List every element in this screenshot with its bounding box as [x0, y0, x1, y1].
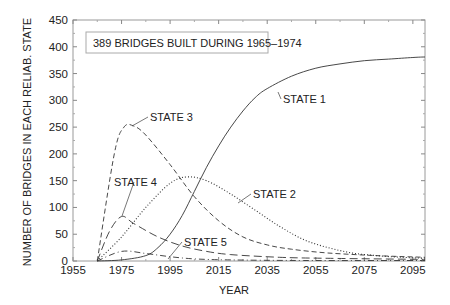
x-tick-label: 1955	[60, 264, 86, 276]
y-tick-label: 200	[49, 148, 68, 160]
x-tick-label: 2035	[254, 264, 280, 276]
y-tick-label: 100	[49, 201, 68, 213]
y-tick-label: 300	[49, 94, 68, 106]
annotation-box-text: 389 BRIDGES BUILT DURING 1965–1974	[93, 37, 302, 49]
x-tick-label: 1995	[157, 264, 183, 276]
x-tick-label: 2015	[206, 264, 232, 276]
x-tick-label: 2095	[400, 264, 426, 276]
series-lines	[97, 57, 425, 261]
series-state-4	[97, 216, 425, 261]
x-tick-label: 2055	[303, 264, 329, 276]
y-tick-label: 250	[49, 121, 68, 133]
y-axis-title: NUMBER OF BRIDGES IN EACH RELIAB. STATE	[21, 18, 33, 266]
y-tick-label: 50	[55, 228, 68, 240]
label-state-5: STATE 5	[184, 236, 227, 248]
y-tick-label: 400	[49, 41, 68, 53]
label-state-1: STATE 1	[283, 93, 326, 105]
label-state-3: STATE 3	[150, 111, 193, 123]
label-state-2: STATE 2	[253, 188, 296, 200]
y-tick-label: 350	[49, 68, 68, 80]
y-tick-label: 450	[49, 14, 68, 26]
reliability-state-chart: 050100150200250300350400450 195519751995…	[0, 0, 450, 305]
x-tick-label: 1975	[109, 264, 135, 276]
y-tick-label: 150	[49, 175, 68, 187]
label-state-4: STATE 4	[114, 176, 157, 188]
x-axis-title: YEAR	[219, 284, 249, 296]
state-annotations: STATE 1STATE 2STATE 3STATE 4STATE 5	[114, 92, 326, 259]
x-tick-label: 2075	[352, 264, 378, 276]
series-state-1	[97, 57, 425, 261]
x-axis-ticks: 19551975199520152035205520752095	[60, 20, 425, 276]
plot-frame	[73, 20, 425, 261]
